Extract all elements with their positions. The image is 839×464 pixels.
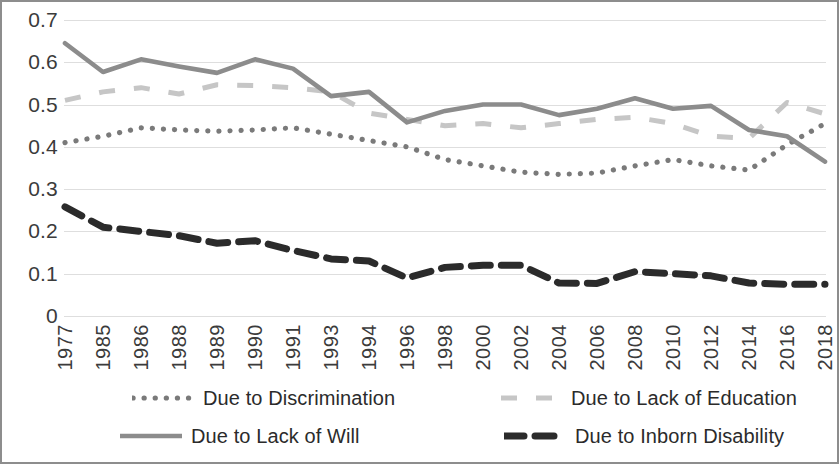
x-tick-label: 1977: [54, 324, 77, 371]
x-axis: 1977198519861988198919901991199319941996…: [64, 318, 826, 390]
y-tick-label: 0.3: [28, 177, 58, 201]
legend-item[interactable]: Due to Lack of Will: [120, 422, 360, 450]
x-tick-label: 2006: [586, 324, 609, 371]
legend-item[interactable]: Due to Discrimination: [132, 384, 395, 412]
series-lines: [64, 20, 826, 316]
series-line-2: [65, 43, 825, 161]
x-tick-label: 1991: [282, 324, 305, 371]
x-tick-label: 2002: [510, 324, 533, 371]
series-line-0: [65, 124, 825, 175]
x-tick-label: 1996: [396, 324, 419, 371]
x-tick-label: 2018: [814, 324, 837, 371]
x-tick-label: 1988: [168, 324, 191, 371]
x-tick-label: 2000: [472, 324, 495, 371]
x-tick-label: 1990: [244, 324, 267, 371]
x-tick-label: 1993: [320, 324, 343, 371]
legend-item[interactable]: Due to Lack of Education: [500, 384, 797, 412]
x-tick-label: 2008: [624, 324, 647, 371]
x-tick-label: 2016: [776, 324, 799, 371]
x-tick-label: 2004: [548, 324, 571, 371]
y-tick-label: 0.7: [28, 8, 58, 32]
x-tick-label: 1998: [434, 324, 457, 371]
x-tick-label: 2014: [738, 324, 761, 371]
legend-label: Due to Discrimination: [203, 387, 395, 410]
x-tick-label: 1989: [206, 324, 229, 371]
y-axis: 0.70.60.50.40.30.20.10: [10, 20, 58, 316]
chart-legend: Due to DiscriminationDue to Lack of Educ…: [112, 384, 752, 454]
chart-figure: 0.70.60.50.40.30.20.10 19771985198619881…: [0, 0, 839, 464]
x-tick-label: 1985: [92, 324, 115, 371]
x-tick-label: 1986: [130, 324, 153, 371]
y-tick-label: 0.5: [28, 93, 58, 117]
y-tick-label: 0.1: [28, 262, 58, 286]
legend-label: Due to Lack of Will: [191, 425, 360, 448]
legend-label: Due to Inborn Disability: [575, 425, 784, 448]
legend-swatch-icon: [132, 391, 194, 405]
y-tick-label: 0.6: [28, 50, 58, 74]
x-tick-label: 2010: [662, 324, 685, 371]
x-tick-label: 1994: [358, 324, 381, 371]
y-tick-label: 0.2: [28, 219, 58, 243]
gridline: [64, 316, 826, 317]
y-tick-label: 0.4: [28, 135, 58, 159]
plot-area: [64, 20, 826, 316]
legend-swatch-icon: [120, 429, 182, 443]
legend-swatch-icon: [504, 429, 566, 443]
legend-label: Due to Lack of Education: [571, 387, 797, 410]
legend-swatch-icon: [500, 391, 562, 405]
series-line-3: [65, 207, 825, 284]
x-tick-label: 2012: [700, 324, 723, 371]
legend-item[interactable]: Due to Inborn Disability: [504, 422, 784, 450]
